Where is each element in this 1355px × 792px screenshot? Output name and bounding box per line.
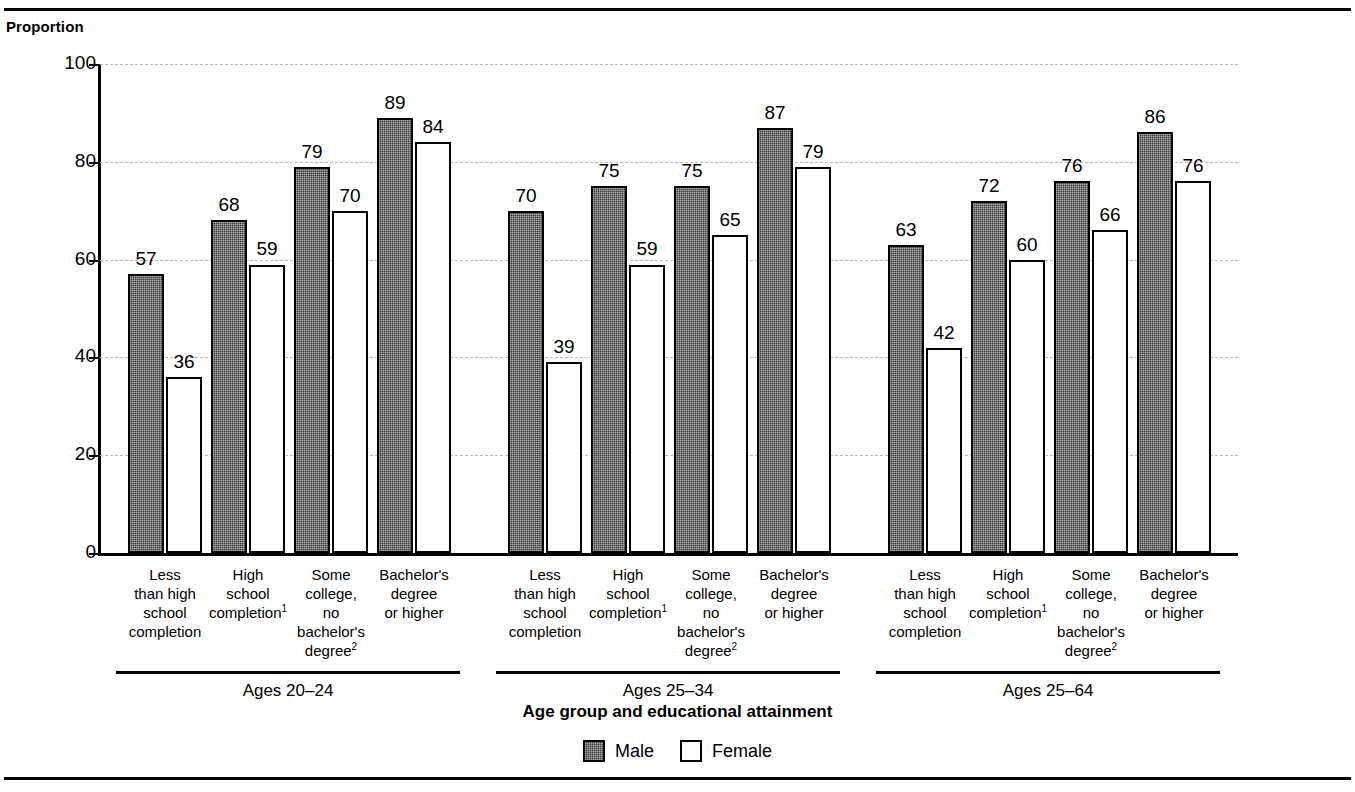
bar-value-label: 89 (384, 92, 405, 114)
category-label: Somecollege,nobachelor'sdegree2 (1057, 565, 1125, 660)
bar-value-label: 59 (636, 238, 657, 260)
bar-female (249, 265, 285, 554)
bar-female (1009, 260, 1045, 553)
group-bracket (116, 671, 460, 674)
bar-value-label: 57 (135, 248, 156, 270)
bar-value-label: 72 (978, 175, 999, 197)
bar-value-label: 60 (1016, 234, 1037, 256)
legend-label-male: Male (615, 741, 654, 762)
male-swatch-icon (583, 740, 605, 762)
category-label: Bachelor'sdegreeor higher (1139, 565, 1209, 622)
bar-value-label: 59 (256, 238, 277, 260)
bar-female (795, 167, 831, 553)
gridline (100, 64, 1238, 65)
female-swatch-icon (680, 740, 702, 762)
bar-male (888, 245, 924, 553)
bar-male (508, 211, 544, 553)
category-label: Lessthan highschoolcompletion (889, 565, 962, 641)
legend-item-female: Female (680, 740, 772, 762)
group-label: Ages 25–34 (623, 681, 714, 701)
bar-value-label: 66 (1099, 204, 1120, 226)
bar-value-label: 79 (802, 141, 823, 163)
bar-value-label: 84 (422, 116, 443, 138)
category-label: Somecollege,nobachelor'sdegree2 (297, 565, 365, 660)
bar-male (591, 186, 627, 553)
category-label: Bachelor'sdegreeor higher (759, 565, 829, 622)
bar-female (1092, 230, 1128, 553)
bar-value-label: 70 (515, 185, 536, 207)
bar-value-label: 86 (1144, 106, 1165, 128)
group-label: Ages 20–24 (243, 681, 334, 701)
bar-value-label: 76 (1182, 155, 1203, 177)
bar-value-label: 39 (553, 336, 574, 358)
bar-value-label: 65 (719, 209, 740, 231)
bar-value-label: 42 (933, 322, 954, 344)
bar-value-label: 75 (681, 160, 702, 182)
category-label: Lessthan highschoolcompletion (509, 565, 582, 641)
group-bracket (876, 671, 1220, 674)
group-label: Ages 25–64 (1003, 681, 1094, 701)
y-axis-tick-label: 20 (36, 443, 96, 465)
y-axis-tick-label: 100 (36, 52, 96, 74)
bar-value-label: 79 (301, 141, 322, 163)
footer-divider (4, 777, 1351, 780)
bar-male (1054, 181, 1090, 553)
bar-value-label: 70 (339, 185, 360, 207)
category-label: Highschoolcompletion1 (209, 565, 287, 622)
bar-male (211, 220, 247, 553)
legend-label-female: Female (712, 741, 772, 762)
bar-female (415, 142, 451, 553)
bar-value-label: 76 (1061, 155, 1082, 177)
bar-female (712, 235, 748, 553)
bar-value-label: 75 (598, 160, 619, 182)
bar-female (1175, 181, 1211, 553)
bar-female (926, 348, 962, 553)
chart-legend: Male Female (0, 740, 1355, 762)
bar-male (1137, 132, 1173, 553)
category-label: Highschoolcompletion1 (969, 565, 1047, 622)
bar-value-label: 63 (895, 219, 916, 241)
x-axis-title: Age group and educational attainment (0, 702, 1355, 722)
bar-male (971, 201, 1007, 553)
header-divider (4, 8, 1351, 11)
y-axis-label: Proportion (6, 18, 84, 35)
chart-plot-area: 0204060801005736Lessthan highschoolcompl… (100, 64, 1238, 553)
bar-value-label: 68 (218, 194, 239, 216)
category-label: Somecollege,nobachelor'sdegree2 (677, 565, 745, 660)
bar-female (546, 362, 582, 553)
bar-female (166, 377, 202, 553)
bar-male (294, 167, 330, 553)
bar-male (128, 274, 164, 553)
y-axis-line (98, 64, 101, 553)
y-axis-tick-label: 40 (36, 345, 96, 367)
bar-value-label: 36 (173, 351, 194, 373)
y-axis-tick-label: 60 (36, 248, 96, 270)
y-axis-tick-label: 0 (36, 541, 96, 563)
bar-female (629, 265, 665, 554)
y-axis-tick-label: 80 (36, 150, 96, 172)
bar-female (332, 211, 368, 553)
bar-value-label: 87 (764, 102, 785, 124)
legend-item-male: Male (583, 740, 654, 762)
category-label: Bachelor'sdegreeor higher (379, 565, 449, 622)
group-bracket (496, 671, 840, 674)
bar-male (377, 118, 413, 553)
category-label: Highschoolcompletion1 (589, 565, 667, 622)
x-axis-line (98, 553, 1238, 556)
bar-male (674, 186, 710, 553)
category-label: Lessthan highschoolcompletion (129, 565, 202, 641)
bar-male (757, 128, 793, 553)
